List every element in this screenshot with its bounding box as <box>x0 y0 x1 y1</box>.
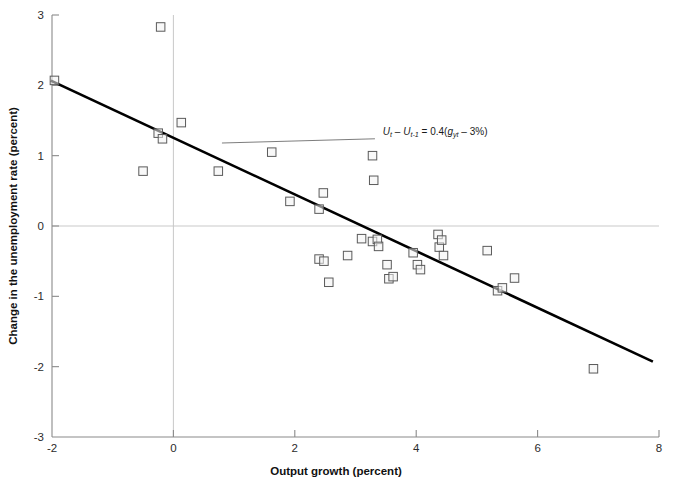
x-tick-label: 6 <box>534 442 540 454</box>
x-tick-label: 2 <box>292 442 298 454</box>
y-tick-label: 3 <box>38 9 44 21</box>
data-point-marker <box>589 365 598 374</box>
x-axis-title: Output growth (percent) <box>270 465 402 477</box>
y-tick-label: -2 <box>34 361 44 373</box>
equation-annotation: Ut – Ut-1 = 0.4(gyt – 3%) <box>222 126 488 143</box>
y-axis-title: Change in the unemployment rate (percent… <box>7 107 19 345</box>
data-point-marker <box>368 151 377 160</box>
data-point-marker <box>343 251 352 259</box>
annotation-leader-line <box>222 139 375 143</box>
data-point-marker <box>498 284 507 293</box>
y-tick-label: 2 <box>38 79 44 91</box>
x-tick-label: 8 <box>656 442 662 454</box>
data-point-marker <box>357 234 366 243</box>
data-point-marker <box>389 272 398 281</box>
data-point-marker <box>139 167 148 176</box>
y-tick-label: 1 <box>38 150 44 162</box>
data-point-marker <box>158 135 167 144</box>
x-tick-label: -2 <box>47 442 57 454</box>
y-tick-label: 0 <box>38 220 44 232</box>
data-points <box>50 23 598 373</box>
data-point-marker <box>319 189 328 198</box>
data-point-marker <box>510 274 519 283</box>
y-tick-label: -3 <box>34 431 44 443</box>
data-point-marker <box>409 248 418 256</box>
reference-lines <box>52 15 659 437</box>
equation-text: Ut – Ut-1 = 0.4(gyt – 3%) <box>383 126 488 140</box>
data-point-marker <box>286 197 295 206</box>
regression-line <box>52 81 652 361</box>
data-point-marker <box>267 148 276 157</box>
data-point-marker <box>374 242 383 251</box>
data-point-marker <box>177 118 186 127</box>
tick-labels: -202468-3-2-10123 <box>34 9 662 454</box>
data-point-marker <box>483 246 492 255</box>
fit-line <box>52 81 652 361</box>
data-point-marker <box>416 265 425 274</box>
data-point-marker <box>383 260 392 269</box>
data-point-marker <box>439 251 448 259</box>
data-point-marker <box>156 23 165 32</box>
data-point-marker <box>50 76 59 85</box>
scatter-plot: -202468-3-2-10123 Ut – Ut-1 = 0.4(gyt – … <box>0 0 673 484</box>
x-tick-label: 0 <box>170 442 176 454</box>
x-tick-label: 4 <box>413 442 420 454</box>
figure-container: -202468-3-2-10123 Ut – Ut-1 = 0.4(gyt – … <box>0 0 673 484</box>
data-point-marker <box>325 278 334 287</box>
y-tick-label: -1 <box>34 290 44 302</box>
data-point-marker <box>214 167 223 176</box>
data-point-marker <box>437 236 446 245</box>
data-point-marker <box>320 257 329 266</box>
data-point-marker <box>315 205 324 214</box>
data-point-marker <box>369 176 378 185</box>
